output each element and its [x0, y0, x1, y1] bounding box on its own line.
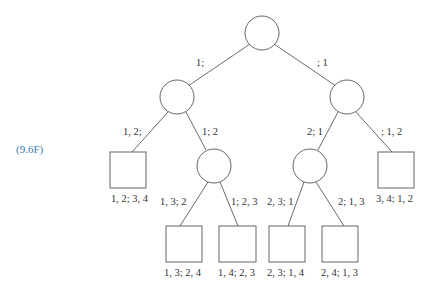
label-rl-b: 2; 1, 3	[338, 196, 365, 207]
left-node	[160, 80, 194, 114]
leaf-label-l2: 3, 4; 1, 2	[376, 193, 413, 204]
leaf-b4	[322, 226, 358, 262]
leaf-label-b4: 2, 4; 1, 3	[321, 267, 358, 278]
leaf-b1	[166, 226, 202, 262]
leaf-b2	[219, 226, 256, 262]
label-l-lr: 1; 2	[202, 126, 218, 137]
label-root-left: 1;	[196, 57, 204, 68]
label-l-ll: 1, 2;	[123, 126, 142, 137]
equation-label: (9.6F)	[16, 143, 44, 156]
leaf-l1	[110, 152, 146, 188]
root-node	[245, 16, 279, 50]
label-r-rr: ; 1, 2	[381, 126, 402, 137]
right-node	[330, 80, 364, 114]
label-root-right: ; 1	[317, 57, 328, 68]
leaf-l2	[378, 152, 414, 188]
leaf-label-b1: 1, 3; 2, 4	[164, 267, 202, 278]
right-inner-node	[293, 149, 327, 183]
tree-diagram: 1; ; 1 1, 2; 1; 2 2; 1 ; 1, 2 1, 3; 2 1;…	[0, 0, 430, 292]
left-inner-node	[197, 149, 231, 183]
leaf-label-l1: 1, 2; 3, 4	[111, 193, 149, 204]
label-lr-a: 1, 3; 2	[160, 196, 187, 207]
leaf-label-b2: 1, 4; 2, 3	[218, 267, 255, 278]
leaf-label-b3: 2, 3; 1, 4	[267, 267, 305, 278]
label-lr-b: 1; 2, 3	[231, 196, 258, 207]
label-rl-a: 2, 3; 1	[267, 196, 294, 207]
leaf-b3	[269, 226, 305, 262]
label-r-rl: 2; 1	[307, 126, 323, 137]
